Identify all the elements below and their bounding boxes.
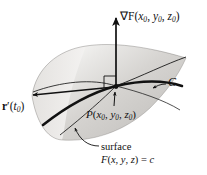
gradient-symbol: ∇F — [120, 10, 134, 22]
surface-eq-equals: = — [138, 154, 149, 165]
curve-c-label: C — [168, 76, 176, 89]
tangent-vector-close-paren: ) — [20, 100, 24, 112]
gradient-label: ∇F(x0, y0, z0) — [120, 10, 180, 24]
surface-label: surface F(x, y, z) = c — [101, 141, 154, 166]
point-p-dot — [114, 84, 119, 89]
surface-eq-c: c — [150, 154, 155, 165]
point-p-close-paren: ) — [132, 108, 136, 120]
point-p-label: P(x0, y0, z0) — [86, 108, 136, 122]
tangent-vector-label: r′(t0) — [2, 100, 24, 114]
gradient-close-paren: ) — [176, 10, 180, 22]
point-p-symbol: P — [86, 108, 93, 120]
figure-container: ∇F(x0, y0, z0) r′(t0) C P(x0, y0, z0) su… — [0, 0, 207, 175]
surface-label-word: surface — [101, 141, 131, 152]
surface-equation: F(x, y, z) = c — [101, 154, 154, 166]
